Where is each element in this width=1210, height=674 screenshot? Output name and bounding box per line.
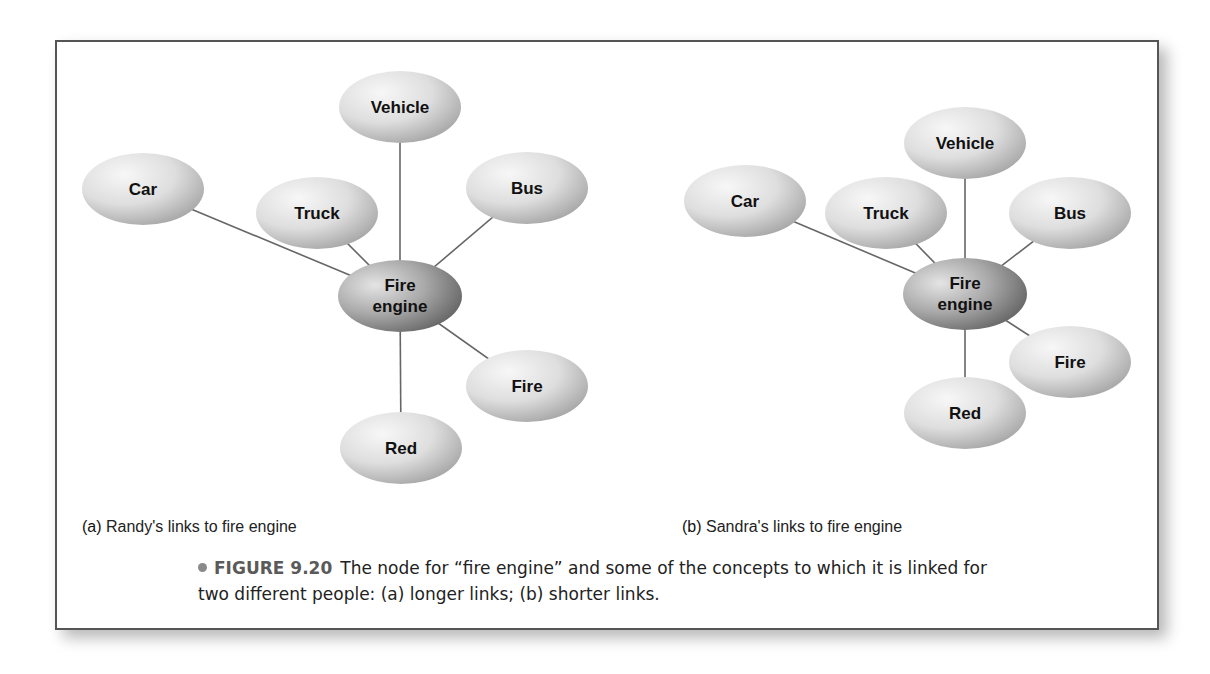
node-label: Truck [863,204,909,223]
concept-node-fire: Fire [466,350,588,422]
concept-node-fire: Fire [1009,326,1131,398]
node-label: Fire [511,377,542,396]
concept-node-car: Car [82,153,204,225]
concept-node-vehicle: Vehicle [904,107,1026,179]
concept-node-truck: Truck [825,177,947,249]
center-node-fire-engine: Fireengine [903,258,1027,330]
node-label: Red [949,404,981,423]
node-label: Bus [1054,204,1086,223]
diagram-a-tag: (a) [82,518,102,535]
node-label: Bus [511,179,543,198]
center-label-line1: Fire [949,274,980,293]
caption-text-1: The node for “fire engine” and some of t… [340,558,987,578]
diagram-b-tag: (b) [682,518,702,535]
center-label-line1: Fire [384,276,415,295]
concept-node-car: Car [684,165,806,237]
concept-node-red: Red [904,377,1026,449]
diagram-b-label: (b) Sandra's links to fire engine [682,518,902,536]
node-label: Fire [1054,353,1085,372]
diagram-a-label: (a) Randy's links to fire engine [82,518,297,536]
nodes-diagram-a: VehicleCarTruckBusFireRedFireengine [82,71,588,484]
diagram-a-title: Randy's links to fire engine [106,518,297,535]
center-label-line2: engine [938,295,993,314]
concept-node-red: Red [340,412,462,484]
caption-line-1: FIGURE 9.20The node for “fire engine” an… [198,555,1098,581]
center-node-ellipse [903,258,1027,330]
node-label: Truck [294,204,340,223]
diagram-b-title: Sandra's links to fire engine [706,518,902,535]
figure-caption: FIGURE 9.20The node for “fire engine” an… [198,555,1098,607]
node-label: Car [731,192,760,211]
node-label: Red [385,439,417,458]
concept-node-bus: Bus [1009,177,1131,249]
caption-line-2: two different people: (a) longer links; … [198,581,1098,607]
concept-node-truck: Truck [256,177,378,249]
node-label: Car [129,180,158,199]
node-label: Vehicle [936,134,995,153]
center-label-line2: engine [373,297,428,316]
center-node-fire-engine: Fireengine [338,260,462,332]
node-label: Vehicle [371,98,430,117]
figure-number: FIGURE 9.20 [214,558,332,578]
concept-node-bus: Bus [466,152,588,224]
bullet-icon [198,563,207,572]
nodes-diagram-b: VehicleCarTruckBusFireRedFireengine [684,107,1131,449]
concept-node-vehicle: Vehicle [339,71,461,143]
center-node-ellipse [338,260,462,332]
